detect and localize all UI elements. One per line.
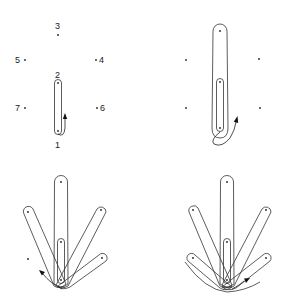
loop-1-2 — [224, 239, 231, 284]
loop-diagram: 3 5 4 2 7 6 1 — [0, 0, 285, 302]
point-5 — [27, 211, 29, 213]
point-2 — [57, 82, 59, 84]
point-4 — [95, 59, 97, 61]
arrow-head-icon — [244, 278, 250, 283]
point-label-2: 2 — [55, 70, 60, 80]
point-4 — [258, 58, 260, 60]
panel-bottom-left — [23, 176, 107, 289]
loop-1-4 — [222, 207, 271, 288]
point-7 — [185, 107, 187, 109]
point-3 — [60, 181, 62, 183]
point-6 — [101, 257, 103, 259]
loop-1-3 — [220, 176, 234, 287]
loop-1-4 — [56, 207, 106, 288]
point-3 — [226, 181, 228, 183]
point-5 — [185, 59, 187, 61]
arrow-head-icon — [63, 113, 67, 119]
arrow-head-icon — [234, 116, 238, 123]
panel-top-left: 3 5 4 2 7 6 1 — [15, 21, 105, 150]
panel-top-right — [185, 24, 261, 145]
point-5 — [24, 59, 26, 61]
point-3 — [57, 34, 59, 36]
point-1 — [226, 279, 228, 281]
point-label-3: 3 — [55, 21, 60, 31]
point-1 — [60, 279, 62, 281]
point-3 — [219, 30, 221, 32]
point-7 — [27, 258, 29, 260]
loop-1-2 — [217, 79, 224, 132]
point-6 — [265, 257, 267, 259]
point-label-5: 5 — [15, 55, 20, 65]
point-2 — [226, 241, 228, 243]
point-2 — [219, 81, 221, 83]
point-7 — [192, 257, 194, 259]
point-7 — [24, 107, 26, 109]
loop-1-5 — [23, 206, 66, 287]
point-6 — [259, 107, 261, 109]
point-2 — [60, 241, 62, 243]
loop-1-2 — [55, 80, 62, 135]
point-6 — [96, 107, 98, 109]
point-1 — [219, 127, 221, 129]
point-label-4: 4 — [99, 55, 104, 65]
loop-1-5 — [189, 206, 232, 288]
loop-1-3 — [54, 176, 68, 287]
point-label-7: 7 — [15, 103, 20, 113]
point-label-1: 1 — [55, 140, 60, 150]
point-label-6: 6 — [100, 103, 105, 113]
point-5 — [192, 209, 194, 211]
panel-bottom-right — [185, 176, 271, 292]
point-4 — [265, 209, 267, 211]
point-4 — [100, 209, 102, 211]
loop-1-3 — [212, 24, 228, 138]
loop-1-2 — [58, 239, 65, 284]
point-1 — [57, 130, 59, 132]
arrow-head-icon — [39, 270, 45, 276]
